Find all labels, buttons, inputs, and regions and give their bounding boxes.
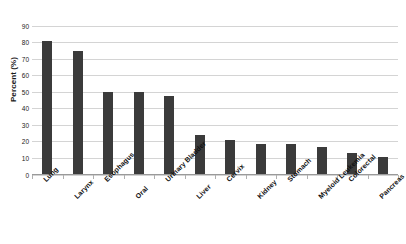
y-axis-tick-label: 30: [3, 122, 29, 129]
bar[interactable]: [164, 96, 174, 175]
bar-slot: [154, 26, 185, 175]
chart-title: in Adults: [0, 0, 406, 1]
x-axis-label: Liver: [195, 183, 212, 200]
x-axis-label: Oral: [134, 185, 149, 200]
bar-slot: [276, 26, 307, 175]
bar-slot: [32, 26, 63, 175]
bar[interactable]: [378, 157, 388, 175]
y-axis-tick-labels: 9080706050403020100: [0, 26, 29, 175]
bar-slot: [215, 26, 246, 175]
y-axis-tick-label: 70: [3, 56, 29, 63]
bar-chart: in Adults Percent (%) 908070605040302010…: [0, 0, 406, 244]
y-axis-tick-label: 10: [3, 155, 29, 162]
bar-slot: [93, 26, 124, 175]
y-axis-tick-label: 20: [3, 138, 29, 145]
bar[interactable]: [134, 92, 144, 175]
x-axis-label: Kidney: [256, 178, 278, 200]
bar-slot: [246, 26, 277, 175]
x-axis-category-labels: LungLarynxEsophagusOralUrinary BladderLi…: [32, 178, 398, 244]
bar-slot: [307, 26, 338, 175]
bar[interactable]: [73, 51, 83, 175]
bar[interactable]: [103, 92, 113, 175]
x-axis-label: Larynx: [73, 178, 95, 200]
y-axis-tick-label: 60: [3, 72, 29, 79]
y-axis-tick-label: 90: [3, 23, 29, 30]
y-axis-tick-label: 0: [3, 172, 29, 179]
y-axis-tick-label: 80: [3, 39, 29, 46]
y-axis-tick-label: 40: [3, 105, 29, 112]
plot-area: [32, 26, 398, 175]
y-axis-tick-label: 50: [3, 89, 29, 96]
bar[interactable]: [317, 147, 327, 175]
bar[interactable]: [42, 41, 52, 175]
bar[interactable]: [256, 144, 266, 175]
bar-slot: [63, 26, 94, 175]
